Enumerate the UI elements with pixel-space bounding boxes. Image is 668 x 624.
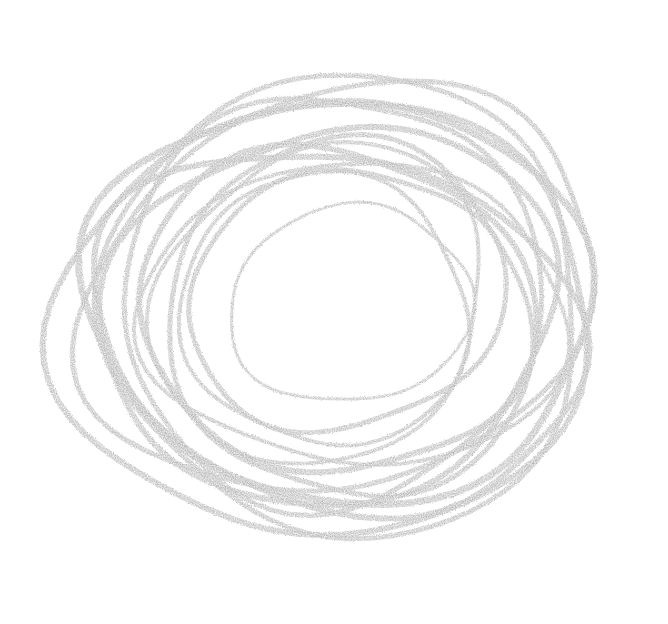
scribble-loop bbox=[179, 171, 470, 445]
scribble-loops bbox=[43, 75, 595, 539]
scribble-canvas bbox=[0, 0, 668, 624]
pencil-scribble-drawing bbox=[0, 0, 668, 624]
scribble-loop bbox=[232, 202, 475, 399]
scribble-loop bbox=[189, 169, 507, 432]
